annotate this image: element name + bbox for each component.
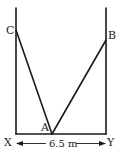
ladder-ab [52,40,106,134]
label-c: C [6,24,14,37]
arrowhead-left-icon [16,141,23,146]
label-b: B [108,29,116,42]
label-x: X [4,136,12,149]
dimension-label: 6.5 m [49,138,78,149]
label-y: Y [106,136,115,149]
ladder-ca [16,30,52,134]
ladder-diagram: C B A X Y 6.5 m [0,0,120,154]
label-a: A [40,121,50,134]
arrowhead-right-icon [99,141,106,146]
